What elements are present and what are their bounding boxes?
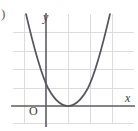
item-marker: ) [1, 7, 5, 20]
graph-canvas [0, 0, 138, 131]
parabola-figure: ) y x O [0, 0, 138, 131]
x-axis-label: x [125, 92, 130, 104]
y-axis-label: y [43, 11, 48, 23]
origin-label: O [29, 105, 38, 117]
